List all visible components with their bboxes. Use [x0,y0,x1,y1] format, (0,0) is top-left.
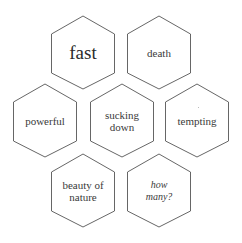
hexagon-fast: fast [52,16,115,89]
hexagon-label: death [147,47,171,59]
hexagon-how-many: how many? [128,154,191,227]
hexagon-death: death [128,16,191,89]
hexagon-beauty-of-nature: beauty of nature [52,154,115,227]
hexagon-powerful: powerful [14,84,77,157]
hexagon-label: how many? [146,179,173,203]
hexagon-label: powerful [25,115,65,127]
hexagon-tempting: tempting [166,84,229,157]
hexagon-label: fast [69,43,96,63]
hexagon-label: beauty of nature [62,179,103,203]
hexagon-label: sucking down [105,109,139,133]
hexagon-label: tempting [177,115,216,127]
scan-speck [198,107,199,108]
hexagon-sucking-down: sucking down [91,84,154,157]
